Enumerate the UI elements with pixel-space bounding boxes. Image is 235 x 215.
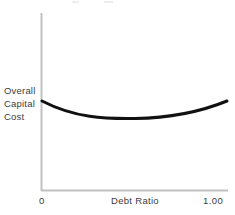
y-axis-label-line-3: Cost [4,110,40,123]
x-tick-label-1: 1.00 [203,195,223,206]
y-axis-label-line-1: Overall [4,84,40,97]
x-axis-label: Debt Ratio [95,195,175,206]
capital-cost-curve [42,101,227,119]
y-axis-label: Overall Capital Cost [4,84,40,123]
y-axis-label-line-2: Capital [4,97,40,110]
x-tick-label-0: 0 [39,195,45,206]
chart-figure: Overall Capital Cost 0 1.00 Debt Ratio [0,0,235,215]
